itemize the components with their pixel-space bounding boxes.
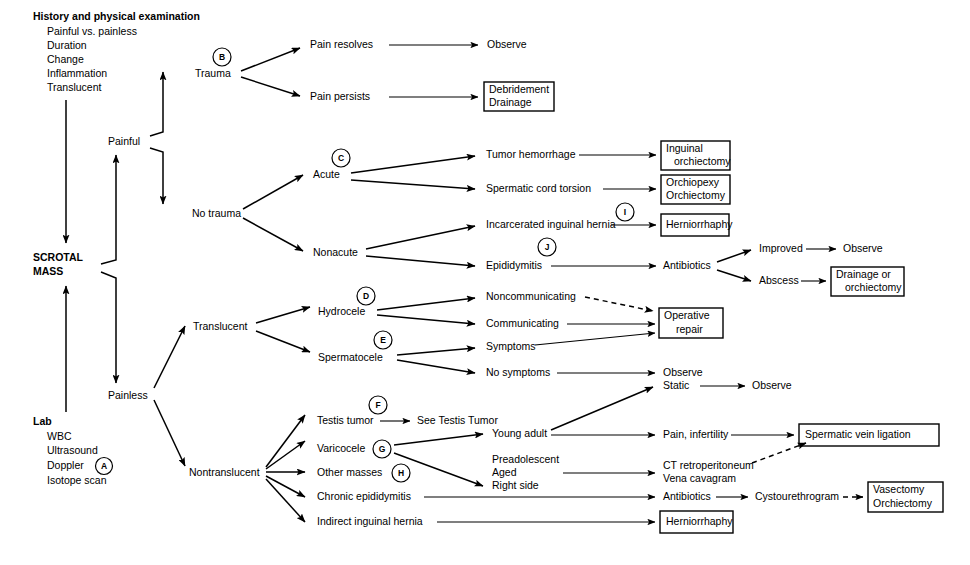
box-debridement-drainage-line2: Drainage <box>489 96 532 108</box>
algorithm-canvas: History and physical examination Painful… <box>0 0 970 565</box>
lab-item-0: WBC <box>47 430 72 442</box>
node-spermatic-cord-torsion: Spermatic cord torsion <box>486 182 591 194</box>
annotation-letter-b: B <box>219 52 225 62</box>
box-vasectomy-orchiectomy-line2: Orchiectomy <box>873 497 933 509</box>
lab-heading: Lab <box>33 415 52 427</box>
edge-antibiotics-to-abscess <box>717 270 751 281</box>
edge-nonacute-to-incarcerated-hernia <box>366 226 475 249</box>
node-pain-resolves: Pain resolves <box>310 38 373 50</box>
annotation-letter-f: F <box>375 400 380 410</box>
box-debridement-drainage-line1: Debridement <box>489 83 549 95</box>
node-observe-1: Observe <box>487 38 527 50</box>
scrotal-mass-algorithm-diagram: History and physical examination Painful… <box>0 0 970 565</box>
edge-root-to-painless <box>101 272 116 383</box>
lab-item-1: Ultrasound <box>47 444 98 456</box>
edge-young-adult-to-static <box>551 387 653 430</box>
node-no-symptoms: No symptoms <box>486 366 550 378</box>
edge-antibiotics-to-improved <box>717 250 751 262</box>
edge-painless-to-translucent <box>154 326 185 388</box>
annotation-letter-h: H <box>398 468 404 478</box>
annotation-letter-j: J <box>545 242 550 252</box>
box-operative-repair-line2: repair <box>676 323 703 335</box>
node-nonacute: Nonacute <box>313 246 358 258</box>
box-spermatic-vein-ligation-line1: Spermatic vein ligation <box>805 428 911 440</box>
box-inguinal-orchiectomy-line2: orchiectomy <box>674 155 731 167</box>
annotation-letter-g: G <box>379 444 386 454</box>
node-epididymitis: Epididymitis <box>486 259 542 271</box>
node-observe-3: Observe <box>663 366 703 378</box>
node-improved: Improved <box>759 242 803 254</box>
edge-hydrocele-to-communicating <box>377 315 475 324</box>
edge-root-to-painful <box>101 155 116 264</box>
node-trauma: Trauma <box>195 67 231 79</box>
edge-trauma-to-pain-persists <box>241 77 300 96</box>
workup-item-0: Painful vs. painless <box>47 25 137 37</box>
node-incarcerated-inguinal-hernia: Incarcerated inguinal hernia <box>486 218 616 230</box>
edge-nontranslucent-to-indirect-hernia <box>266 479 305 522</box>
box-herniorrhaphy-bottom-line1: Herniorrhaphy <box>666 515 733 527</box>
node-nontranslucent: Nontranslucent <box>189 466 260 478</box>
node-antibiotics-2: Antibiotics <box>663 490 711 502</box>
box-drainage-or-orchiectomy-line2: orchiectomy <box>845 281 902 293</box>
box-inguinal-orchiectomy-line1: Inguinal <box>666 142 703 154</box>
node-young-adult: Young adult <box>492 427 547 439</box>
node-static: Static <box>663 379 689 391</box>
edge-ct-to-spermatic-vein-ligation <box>752 443 806 463</box>
edge-translucent-to-hydrocele <box>256 307 310 323</box>
node-varicocele: Varicocele <box>317 442 365 454</box>
edge-symptoms-to-operative-repair <box>535 333 655 345</box>
lab-item-2: Doppler <box>47 459 84 471</box>
node-painful: Painful <box>108 135 140 147</box>
annotation-letter-e: E <box>380 335 386 345</box>
edge-no-trauma-to-acute <box>243 175 303 209</box>
edge-painless-to-nontranslucent <box>154 400 185 466</box>
node-ct-retroperitoneum: CT retroperitoneum <box>663 459 754 471</box>
workup-item-2: Change <box>47 53 84 65</box>
workup-item-4: Translucent <box>47 81 102 93</box>
edge-nontranslucent-to-varicocele <box>266 441 305 469</box>
edge-hydrocele-to-noncommunicating <box>377 298 475 310</box>
workup-item-3: Inflammation <box>47 67 107 79</box>
node-painless: Painless <box>108 389 148 401</box>
node-see-testis-tumor: See Testis Tumor <box>417 414 498 426</box>
node-testis-tumor: Testis tumor <box>317 414 374 426</box>
edge-translucent-to-spermatocele <box>256 331 310 352</box>
node-antibiotics-1: Antibiotics <box>663 259 711 271</box>
box-herniorrhaphy-top-line1: Herniorrhaphy <box>666 218 733 230</box>
node-noncommunicating: Noncommunicating <box>486 290 576 302</box>
box-orchiopexy-orchiectomy-line1: Orchiopexy <box>666 176 720 188</box>
node-communicating: Communicating <box>486 317 559 329</box>
edge-nonacute-to-epididymitis <box>366 256 475 266</box>
node-vena-cavagram: Vena cavagram <box>663 472 736 484</box>
node-preadolescent: Preadolescent <box>492 453 559 465</box>
node-observe-4: Observe <box>752 379 792 391</box>
box-operative-repair-line1: Operative <box>664 309 710 321</box>
box-drainage-or-orchiectomy-line1: Drainage or <box>836 268 891 280</box>
node-pain-infertility: Pain, infertility <box>663 428 729 440</box>
edge-varicocele-to-young-adult <box>394 434 483 445</box>
edge-acute-to-spermatic-cord-torsion <box>351 180 475 189</box>
box-vasectomy-orchiectomy-line1: Vasectomy <box>873 483 925 495</box>
node-spermatocele: Spermatocele <box>318 351 383 363</box>
workup-item-1: Duration <box>47 39 87 51</box>
node-abscess: Abscess <box>759 274 799 286</box>
node-cystourethrogram: Cystourethrogram <box>755 490 839 502</box>
node-other-masses: Other masses <box>317 466 382 478</box>
edge-painful-to-no-trauma <box>150 148 163 204</box>
root-label-line2: MASS <box>33 265 63 277</box>
node-hydrocele: Hydrocele <box>318 305 365 317</box>
node-pain-persists: Pain persists <box>310 90 370 102</box>
box-orchiopexy-orchiectomy-line2: Orchiectomy <box>666 189 726 201</box>
edge-no-trauma-to-nonacute <box>243 218 303 251</box>
node-right-side: Right side <box>492 479 539 491</box>
edge-acute-to-tumor-hemorrhage <box>351 156 475 173</box>
annotation-letter-a: A <box>101 461 107 471</box>
edge-nontranslucent-to-testis-tumor <box>266 415 305 467</box>
node-tumor-hemorrhage: Tumor hemorrhage <box>486 148 576 160</box>
edge-noncommunicating-to-operative-repair <box>585 297 653 311</box>
annotation-letter-i: I <box>624 207 626 217</box>
annotation-letter-d: D <box>363 291 369 301</box>
node-no-trauma: No trauma <box>192 207 241 219</box>
workup-heading: History and physical examination <box>33 10 200 22</box>
edge-spermatocele-to-no-symptoms <box>397 360 475 373</box>
